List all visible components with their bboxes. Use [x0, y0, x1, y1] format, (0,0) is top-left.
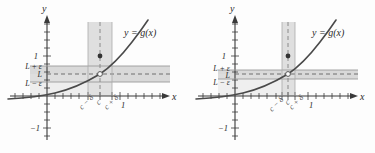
x-axis-label: x: [171, 91, 177, 102]
y-tick-label-minus-one: −1: [30, 123, 40, 133]
plot-left: y x y = g(x) 1 L + ε L L − ε −1 c − δ c …: [0, 0, 187, 153]
chart-panel-left: y x y = g(x) 1 L + ε L L − ε −1 c − δ c …: [0, 0, 187, 153]
x-axis-arrow: [350, 93, 358, 99]
y-tick-label-one: 1: [34, 51, 38, 61]
x-axis-label: x: [359, 91, 365, 102]
x-tick-label-one: 1: [309, 100, 313, 110]
value-point-dot: [286, 54, 291, 59]
x-axis-arrow: [162, 93, 170, 99]
hole-point-open-circle: [286, 72, 291, 77]
epsilon-delta-limit-figure: y x y = g(x) 1 L + ε L L − ε −1 c − δ c …: [0, 0, 375, 153]
value-point-dot: [98, 54, 103, 59]
plot-right: y x y = g(x) 1 L + ε L L − ε −1 c − δ c …: [188, 0, 375, 153]
y-tick-label-L-minus-eps: L − ε: [212, 78, 231, 87]
y-axis-label: y: [229, 3, 235, 14]
x-tick-label-one: 1: [121, 100, 125, 110]
y-tick-label-L-minus-eps: L − ε: [24, 79, 43, 88]
curve-label: y = g(x): [123, 27, 157, 39]
y-axis-label: y: [41, 3, 47, 14]
curve-label: y = g(x): [311, 27, 345, 39]
y-axis-arrow: [232, 15, 238, 23]
y-tick-label-one: 1: [222, 51, 226, 61]
y-axis-arrow: [44, 15, 50, 23]
chart-panel-right: y x y = g(x) 1 L + ε L L − ε −1 c − δ c …: [188, 0, 375, 153]
hole-point-open-circle: [98, 72, 103, 77]
x-tick-label-c-minus-delta: c − δ: [267, 95, 285, 113]
y-tick-label-minus-one: −1: [218, 123, 228, 133]
y-tick-label-L: L: [37, 70, 43, 79]
